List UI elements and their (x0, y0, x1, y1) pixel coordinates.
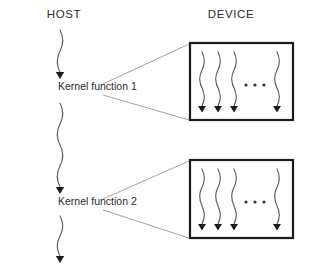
host-arrow-1 (56, 30, 64, 79)
host-device-diagram: HOST DEVICE Kernel function 1 Kernel fun… (0, 0, 311, 266)
device-box-2-thread-3 (230, 169, 238, 231)
connector-k1-top (103, 44, 189, 84)
device-box-2-thread-2-arrowhead-icon (214, 224, 222, 231)
host-arrow-2-wave (57, 103, 63, 187)
connector-lines (103, 44, 189, 238)
node-label-kernel-function-2: Kernel function 2 (58, 195, 137, 207)
device-box-1-thread-4-arrowhead-icon (273, 106, 281, 113)
diagram-canvas: HOST DEVICE Kernel function 1 Kernel fun… (0, 0, 311, 266)
device-box-2-thread-2-wave (216, 169, 221, 224)
device-box-2-thread-1 (198, 169, 206, 231)
device-box-1-thread-2-arrowhead-icon (214, 106, 222, 113)
host-arrow-1-wave (57, 30, 63, 72)
device-box-1-thread-3 (230, 52, 238, 113)
device-box-2-thread-4-wave (275, 169, 280, 224)
device-box-1-thread-1-wave (200, 52, 205, 106)
device-box-2-thread-1-wave (200, 169, 205, 224)
node-label-kernel-function-1: Kernel function 1 (58, 80, 137, 92)
device-box-1-thread-3-wave (232, 52, 237, 106)
host-node-labels: Kernel function 1 Kernel function 2 (58, 80, 137, 207)
device-box-2-thread-1-arrowhead-icon (198, 224, 206, 231)
column-title-device: DEVICE (208, 8, 254, 20)
host-arrow-3 (56, 216, 64, 263)
connector-k2-top (103, 161, 189, 199)
column-title-host: HOST (47, 8, 81, 20)
device-box-2-ellipsis-icon (244, 200, 265, 203)
host-arrow-2 (56, 103, 64, 194)
device-box-2-thread-3-arrowhead-icon (230, 224, 238, 231)
column-titles: HOST DEVICE (47, 8, 254, 20)
connector-k2-bottom (103, 210, 189, 238)
device-box-1-thread-1 (198, 52, 206, 113)
host-arrow-3-wave (57, 216, 63, 256)
device-box-2-thread-4 (273, 169, 281, 231)
device-box-2-thread-2 (214, 169, 222, 231)
device-box-2-thread-4-arrowhead-icon (273, 224, 281, 231)
host-arrow-3-arrowhead-icon (56, 256, 64, 263)
host-arrow-1-arrowhead-icon (56, 72, 64, 79)
device-box-1-thread-3-arrowhead-icon (230, 106, 238, 113)
device-box-1-ellipsis-icon (244, 83, 265, 86)
host-arrows (56, 30, 64, 263)
device-box-1-thread-2 (214, 52, 222, 113)
device-box-1-thread-4-wave (275, 52, 280, 106)
device-box-2 (190, 160, 293, 238)
device-box-1 (190, 43, 293, 120)
device-box-1-thread-1-arrowhead-icon (198, 106, 206, 113)
device-box-2-thread-3-wave (232, 169, 237, 224)
connector-k1-bottom (103, 95, 189, 120)
device-boxes (190, 43, 293, 238)
device-box-1-thread-2-wave (216, 52, 221, 106)
host-arrow-2-arrowhead-icon (56, 187, 64, 194)
device-box-1-thread-4 (273, 52, 281, 113)
